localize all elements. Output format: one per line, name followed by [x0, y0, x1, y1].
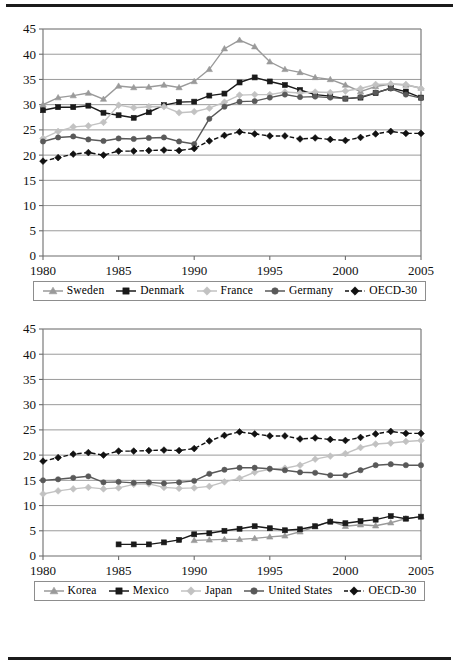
svg-text:2005: 2005 — [408, 563, 434, 578]
legend-bottom: KoreaMexicoJapanUnited StatesOECD-30 — [34, 581, 426, 601]
svg-text:15: 15 — [23, 473, 36, 488]
svg-text:0: 0 — [30, 248, 37, 263]
svg-text:40: 40 — [23, 47, 36, 62]
legend-item-label: Denmark — [140, 285, 184, 297]
svg-text:1980: 1980 — [30, 563, 56, 578]
svg-text:20: 20 — [23, 148, 36, 163]
legend-item-label: France — [221, 285, 254, 297]
legend-bottom-wrap: KoreaMexicoJapanUnited StatesOECD-30 — [0, 581, 459, 601]
legend-item-oecd-30[interactable]: OECD-30 — [343, 585, 416, 597]
legend-top-wrap: SwedenDenmarkFranceGermanyOECD-30 — [0, 281, 459, 301]
svg-text:25: 25 — [23, 122, 36, 137]
legend-marker-triangle-icon — [42, 285, 64, 297]
legend-item-label: OECD-30 — [368, 585, 416, 597]
svg-text:5: 5 — [30, 523, 37, 538]
legend-item-denmark[interactable]: Denmark — [115, 285, 184, 297]
legend-marker-square-icon — [108, 585, 130, 597]
svg-text:1980: 1980 — [30, 263, 56, 278]
svg-text:35: 35 — [23, 72, 36, 87]
line-chart-bottom: 0510152025303540451980198519901995200020… — [0, 307, 459, 579]
svg-text:15: 15 — [23, 173, 36, 188]
svg-text:30: 30 — [23, 397, 36, 412]
legend-item-label: Germany — [289, 285, 333, 297]
svg-text:1995: 1995 — [257, 263, 283, 278]
svg-text:5: 5 — [30, 223, 37, 238]
legend-item-label: Japan — [205, 585, 232, 597]
svg-text:40: 40 — [23, 347, 36, 362]
legend-item-label: Mexico — [133, 585, 169, 597]
legend-item-label: Korea — [68, 585, 97, 597]
legend-item-united-states[interactable]: United States — [243, 585, 332, 597]
legend-marker-square-icon — [115, 285, 137, 297]
legend-marker-diamond-icon — [180, 585, 202, 597]
svg-text:2005: 2005 — [408, 263, 434, 278]
svg-text:1995: 1995 — [257, 563, 283, 578]
svg-text:10: 10 — [23, 198, 36, 213]
svg-text:0: 0 — [30, 548, 37, 563]
svg-text:1990: 1990 — [181, 263, 207, 278]
svg-text:30: 30 — [23, 97, 36, 112]
bottom-rule — [8, 657, 451, 660]
svg-text:45: 45 — [23, 321, 36, 336]
chart-panel-bottom: 0510152025303540451980198519901995200020… — [0, 307, 459, 607]
chart-panel-top: 0510152025303540451980198519901995200020… — [0, 7, 459, 307]
legend-marker-circle-icon — [243, 585, 265, 597]
svg-text:10: 10 — [23, 498, 36, 513]
svg-text:2000: 2000 — [332, 563, 358, 578]
legend-item-oecd-30[interactable]: OECD-30 — [344, 285, 417, 297]
legend-item-label: OECD-30 — [369, 285, 417, 297]
svg-text:25: 25 — [23, 422, 36, 437]
svg-text:2000: 2000 — [332, 263, 358, 278]
figure-page: 0510152025303540451980198519901995200020… — [0, 4, 459, 668]
legend-marker-diamond-icon — [344, 285, 366, 297]
line-chart-top: 0510152025303540451980198519901995200020… — [0, 7, 459, 279]
legend-marker-diamond-icon — [196, 285, 218, 297]
legend-item-korea[interactable]: Korea — [43, 585, 97, 597]
legend-marker-diamond-icon — [343, 585, 365, 597]
legend-marker-circle-icon — [264, 285, 286, 297]
legend-item-france[interactable]: France — [196, 285, 254, 297]
legend-marker-triangle-icon — [43, 585, 65, 597]
legend-item-japan[interactable]: Japan — [180, 585, 232, 597]
svg-text:20: 20 — [23, 448, 36, 463]
svg-text:1985: 1985 — [106, 263, 132, 278]
svg-text:35: 35 — [23, 372, 36, 387]
svg-text:1985: 1985 — [106, 563, 132, 578]
legend-item-mexico[interactable]: Mexico — [108, 585, 169, 597]
svg-text:45: 45 — [23, 21, 36, 36]
legend-item-germany[interactable]: Germany — [264, 285, 333, 297]
legend-top: SwedenDenmarkFranceGermanyOECD-30 — [33, 281, 427, 301]
svg-text:1990: 1990 — [181, 563, 207, 578]
legend-item-sweden[interactable]: Sweden — [42, 285, 105, 297]
legend-item-label: Sweden — [67, 285, 105, 297]
legend-item-label: United States — [268, 585, 332, 597]
